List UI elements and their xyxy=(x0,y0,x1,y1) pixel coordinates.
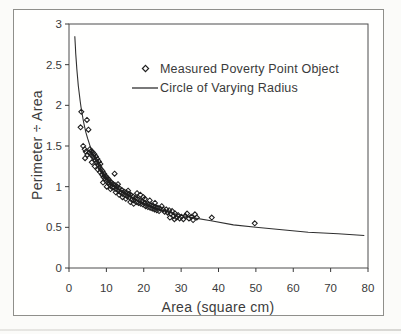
y-tick-label: 2 xyxy=(56,99,62,111)
y-tick-label: 3 xyxy=(56,18,62,30)
x-tick-label: 50 xyxy=(249,282,262,294)
y-tick-label: 0 xyxy=(56,262,62,274)
x-tick-label: 40 xyxy=(212,282,225,294)
x-tick-label: 60 xyxy=(287,282,300,294)
x-tick-label: 0 xyxy=(66,282,72,294)
x-axis-label: Area (square cm) xyxy=(118,299,318,315)
legend: Measured Poverty Point Object Circle of … xyxy=(131,59,339,97)
scatter-point xyxy=(112,171,117,176)
chart-canvas: 0102030405060708000.511.522.53 xyxy=(0,0,401,334)
scatter-point xyxy=(252,221,257,226)
scan-artifact-line xyxy=(0,329,401,331)
line-marker-icon xyxy=(131,86,160,90)
x-tick-label: 70 xyxy=(324,282,337,294)
legend-item-measured-points: Measured Poverty Point Object xyxy=(131,59,339,78)
y-tick-label: 1.5 xyxy=(46,140,62,152)
x-tick-label: 30 xyxy=(175,282,188,294)
scatter-point xyxy=(86,127,91,132)
x-tick-label: 80 xyxy=(362,282,375,294)
y-axis-label: Perimeter ÷ Area xyxy=(29,90,45,200)
legend-label-circle-curve: Circle of Varying Radius xyxy=(160,81,298,95)
scatter-point xyxy=(84,117,89,122)
scatter-point xyxy=(209,215,214,220)
y-tick-label: 2.5 xyxy=(46,59,62,71)
legend-label-measured-points: Measured Poverty Point Object xyxy=(160,62,339,76)
scatter-point xyxy=(78,125,83,130)
diamond-marker-icon xyxy=(131,63,160,74)
x-tick-label: 20 xyxy=(137,282,150,294)
y-tick-label: 0.5 xyxy=(46,221,62,233)
x-tick-label: 10 xyxy=(100,282,113,294)
y-tick-label: 1 xyxy=(56,181,62,193)
legend-item-circle-curve: Circle of Varying Radius xyxy=(131,78,339,97)
